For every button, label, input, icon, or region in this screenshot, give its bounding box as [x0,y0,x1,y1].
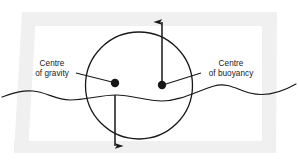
gravity-leader-line [76,73,112,82]
floating-body-circle [86,32,193,139]
centre-of-gravity-dot [111,79,119,87]
scan-shadow-frame [14,12,277,153]
scan-shadow-right [262,12,277,153]
centre-of-buoyancy-label-line1: Centre [201,59,261,69]
buoyancy-leader-line [166,73,201,84]
centre-of-gravity-label-line1: Centre [24,59,80,69]
centre-of-gravity-label: Centre of gravity [24,59,80,79]
centre-of-gravity-label-line2: of gravity [24,69,80,79]
buoyancy-diagram: Centre of gravity Centre of buoyancy [0,0,299,163]
scan-shadow-top [22,12,277,26]
water-surface-wave [2,84,296,101]
centre-of-buoyancy-label: Centre of buoyancy [201,59,261,79]
scan-shadow-left [14,12,36,153]
centre-of-buoyancy-dot [158,81,166,89]
centre-of-buoyancy-label-line2: of buoyancy [201,69,261,79]
scan-shadow-bottom [14,141,276,153]
diagram-canvas [0,0,299,163]
